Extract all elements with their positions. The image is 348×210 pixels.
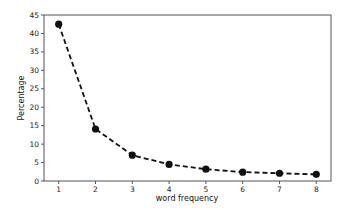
- plot-frame: [44, 15, 331, 181]
- x-tick-label: 8: [314, 185, 319, 194]
- data-line: [59, 24, 317, 174]
- y-tick-label: 25: [29, 84, 39, 93]
- y-tick-label: 15: [29, 121, 39, 130]
- y-tick-label: 30: [29, 66, 39, 75]
- y-axis-label: Percentage: [17, 75, 26, 120]
- y-tick-label: 45: [29, 11, 39, 20]
- data-point: [239, 169, 246, 176]
- data-markers: [55, 21, 320, 178]
- y-tick-label: 0: [34, 177, 39, 186]
- x-tick-label: 7: [277, 185, 282, 194]
- x-axis-label: word frequency: [156, 194, 219, 203]
- x-tick-label: 5: [204, 185, 209, 194]
- x-tick-label: 3: [130, 185, 135, 194]
- data-point: [92, 125, 99, 132]
- data-point: [55, 21, 62, 28]
- x-tick-label: 2: [93, 185, 98, 194]
- x-tick-label: 6: [240, 185, 245, 194]
- y-tick-label: 20: [29, 103, 39, 112]
- data-point: [202, 166, 209, 173]
- data-point: [276, 170, 283, 177]
- x-axis-ticks: 12345678: [56, 181, 319, 194]
- line-chart: 051015202530354045 12345678 word frequen…: [0, 0, 348, 210]
- y-tick-label: 40: [29, 29, 39, 38]
- y-tick-label: 35: [29, 47, 39, 56]
- x-tick-label: 1: [56, 185, 61, 194]
- data-point: [129, 152, 136, 159]
- y-axis-ticks: 051015202530354045: [29, 11, 44, 186]
- data-point: [166, 161, 173, 168]
- data-point: [313, 171, 320, 178]
- y-tick-label: 10: [29, 140, 39, 149]
- y-tick-label: 5: [34, 158, 39, 167]
- x-tick-label: 4: [167, 185, 172, 194]
